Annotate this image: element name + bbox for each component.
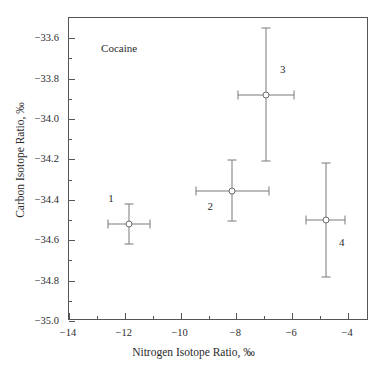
x-tick-label: −12 bbox=[116, 327, 132, 338]
y-tick-major bbox=[69, 200, 75, 201]
x-tick-major bbox=[125, 313, 126, 319]
y-error-cap-upper bbox=[125, 203, 134, 204]
x-tick-minor bbox=[97, 316, 98, 319]
x-tick-minor bbox=[320, 316, 321, 319]
y-tick-minor bbox=[69, 220, 72, 221]
series-annotation-label: Cocaine bbox=[101, 42, 137, 54]
y-error-cap-upper bbox=[228, 160, 237, 161]
x-error-cap-left bbox=[306, 216, 307, 225]
y-tick-major bbox=[69, 79, 75, 80]
y-tick-minor bbox=[69, 180, 72, 181]
x-tick-label: −8 bbox=[230, 327, 241, 338]
y-tick-label: −34.8 bbox=[0, 274, 59, 285]
y-error-cap-lower bbox=[228, 221, 237, 222]
x-error-cap-right bbox=[268, 186, 269, 195]
y-tick-minor bbox=[69, 139, 72, 140]
data-point-label: 3 bbox=[280, 63, 286, 75]
data-point-marker bbox=[262, 91, 269, 98]
x-tick-major bbox=[181, 313, 182, 319]
y-tick-label: −34.0 bbox=[0, 113, 59, 124]
x-tick-major bbox=[292, 313, 293, 319]
x-tick-minor bbox=[153, 316, 154, 319]
data-point-marker bbox=[322, 217, 329, 224]
x-tick-major bbox=[69, 313, 70, 319]
y-tick-label: −33.8 bbox=[0, 72, 59, 83]
y-tick-label: −35.0 bbox=[0, 315, 59, 326]
y-tick-label: −33.6 bbox=[0, 32, 59, 43]
y-tick-major bbox=[69, 119, 75, 120]
isotope-ratio-scatter-figure: 1234 Cocaine −14−12−10−8−6−4 −33.6−33.8−… bbox=[0, 0, 387, 373]
x-tick-label: −14 bbox=[60, 327, 76, 338]
x-error-cap-right bbox=[345, 216, 346, 225]
y-axis-title: Carbon Isotope Ratio, ‰ bbox=[14, 80, 26, 240]
y-tick-major bbox=[69, 38, 75, 39]
plot-frame: 1234 Cocaine bbox=[68, 17, 368, 320]
y-error-cap-lower bbox=[125, 244, 134, 245]
y-error-cap-upper bbox=[261, 28, 270, 29]
x-error-cap-right bbox=[149, 220, 150, 229]
y-tick-label: −34.2 bbox=[0, 153, 59, 164]
y-tick-minor bbox=[69, 58, 72, 59]
y-error-cap-lower bbox=[321, 276, 330, 277]
data-point-marker bbox=[229, 187, 236, 194]
y-tick-label: −34.6 bbox=[0, 234, 59, 245]
y-tick-minor bbox=[69, 301, 72, 302]
y-tick-major bbox=[69, 321, 75, 322]
x-tick-minor bbox=[264, 316, 265, 319]
data-point-label: 4 bbox=[339, 236, 345, 248]
data-point-label: 1 bbox=[108, 192, 114, 204]
y-tick-major bbox=[69, 281, 75, 282]
x-error-cap-left bbox=[108, 220, 109, 229]
y-error-cap-lower bbox=[261, 161, 270, 162]
x-error-cap-right bbox=[293, 90, 294, 99]
x-tick-major bbox=[348, 313, 349, 319]
y-tick-label: −34.4 bbox=[0, 193, 59, 204]
x-error-cap-left bbox=[195, 186, 196, 195]
y-tick-major bbox=[69, 240, 75, 241]
x-axis-title: Nitrogen Isotope Ratio, ‰ bbox=[0, 346, 387, 358]
x-tick-minor bbox=[209, 316, 210, 319]
y-tick-minor bbox=[69, 99, 72, 100]
data-point-marker bbox=[126, 221, 133, 228]
x-error-cap-left bbox=[237, 90, 238, 99]
x-tick-label: −10 bbox=[171, 327, 187, 338]
x-tick-major bbox=[236, 313, 237, 319]
data-point-label: 2 bbox=[208, 200, 214, 212]
x-tick-label: −4 bbox=[341, 327, 352, 338]
x-tick-label: −6 bbox=[286, 327, 297, 338]
y-tick-major bbox=[69, 159, 75, 160]
y-error-cap-upper bbox=[321, 163, 330, 164]
y-tick-minor bbox=[69, 260, 72, 261]
